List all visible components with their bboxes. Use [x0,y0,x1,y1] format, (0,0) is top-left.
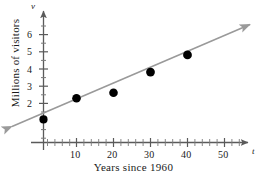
data-point [183,51,192,60]
trend-line [12,25,250,127]
y-axis-title: Millions of visitors [9,3,21,123]
data-point [109,89,118,98]
y-axis [39,11,48,150]
x-tick-label-30: 30 [144,149,154,160]
x-tick-label-20: 20 [107,149,117,160]
x-tick-label-10: 10 [70,149,80,160]
x-axis-variable-label: t [252,146,255,156]
data-point [72,94,81,103]
y-tick-label-6: 6 [27,29,32,40]
y-tick-label-5: 5 [27,46,32,57]
data-point [39,115,47,123]
y-tick-label-2: 2 [27,98,32,109]
scatter-plot-figure: 2 3 4 5 6 10 20 30 40 50 v t Years since… [0,0,267,184]
x-axis-title: Years since 1960 [0,161,267,173]
y-axis-variable-label: v [31,1,35,11]
data-points [39,51,192,124]
x-tick-label-40: 40 [181,149,191,160]
x-tick-label-50: 50 [218,149,228,160]
y-tick-label-3: 3 [27,81,32,92]
x-axis [31,138,248,147]
data-point [146,68,155,77]
y-tick-label-4: 4 [27,64,32,75]
